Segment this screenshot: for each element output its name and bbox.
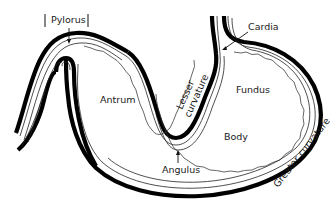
label-pylorus: Pylorus — [51, 14, 86, 25]
stomach-wall-layers — [20, 16, 315, 188]
label-greater-curvature: Greater curvature — [271, 115, 332, 189]
pylorus-arrowhead — [67, 39, 71, 44]
label-cardia: Cardia — [248, 21, 279, 32]
label-fundus: Fundus — [236, 84, 270, 95]
label-antrum: Antrum — [100, 94, 135, 105]
label-body: Body — [224, 131, 248, 142]
label-angulus: Angulus — [162, 164, 200, 175]
stomach-diagram: Pylorus Cardia Antrum Fundus Body Angulu… — [0, 0, 336, 218]
cardia-arrowhead — [222, 46, 227, 50]
